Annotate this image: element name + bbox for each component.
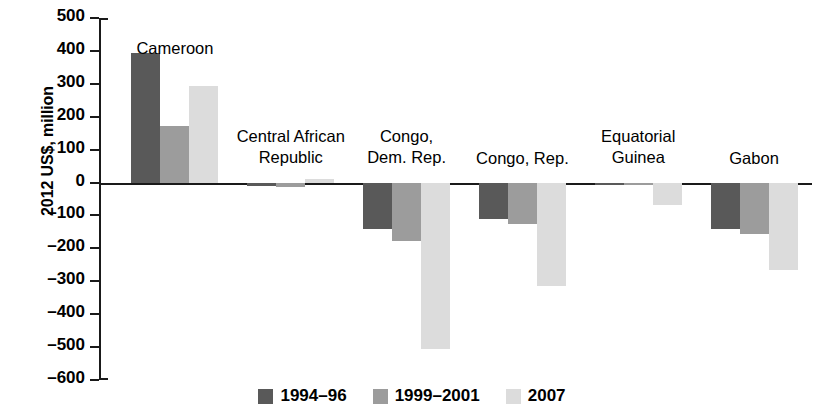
bar [392, 183, 421, 242]
y-tick: –500 [90, 346, 99, 348]
y-axis-bottom-cap [99, 378, 108, 380]
bar [247, 183, 276, 187]
y-tick-label: –200 [47, 236, 85, 256]
bar-group-label-line: Equatorial [601, 126, 675, 147]
y-tick: 300 [90, 83, 99, 85]
y-tick: –100 [90, 214, 99, 216]
bar-group: Central AfricanRepublic [233, 18, 349, 380]
y-tick-label: 0 [76, 171, 85, 191]
bar-group-label-line: Congo, Rep. [476, 148, 569, 169]
y-tick-label: 500 [57, 6, 85, 26]
bar-group-label-line: Cameroon [136, 38, 213, 59]
bar-chart: 2012 US$, million 5004003002001000–100–2… [0, 0, 824, 412]
bar-group-label: Central AfricanRepublic [237, 126, 345, 168]
bar [653, 183, 682, 205]
bar [711, 183, 740, 230]
bar-group-bars [479, 18, 566, 380]
legend-swatch-icon [373, 389, 388, 404]
bar [160, 126, 189, 183]
bar-group-bars [711, 18, 798, 380]
bar-group: Gabon [696, 18, 812, 380]
y-tick: –200 [90, 247, 99, 249]
y-tick: 200 [90, 116, 99, 118]
bar-group-label-line: Central African [237, 126, 345, 147]
bar-group: Congo, Rep. [465, 18, 581, 380]
bar-group-label: Cameroon [136, 38, 213, 59]
y-tick-label: 300 [57, 72, 85, 92]
bar-group-label-line: Guinea [601, 147, 675, 168]
bar-group: Cameroon [117, 18, 233, 380]
y-tick-label: –300 [47, 269, 85, 289]
bar-group-label-line: Congo, [367, 126, 446, 147]
bar-group-label-line: Dem. Rep. [367, 147, 446, 168]
bar [276, 183, 305, 188]
y-tick-label: 400 [57, 39, 85, 59]
y-axis-top-cap [99, 18, 108, 20]
bar-group-label: Gabon [729, 148, 779, 169]
y-tick: –600 [90, 379, 99, 381]
y-tick: 0 [90, 182, 99, 184]
legend-label: 2007 [528, 386, 566, 406]
legend-swatch-icon [506, 389, 521, 404]
bar-group-bars [595, 18, 682, 380]
chart-legend: 1994–961999–20012007 [0, 386, 824, 406]
plot-area: 5004003002001000–100–200–300–400–500–600… [99, 18, 812, 380]
bar [740, 183, 769, 234]
bar [189, 86, 218, 182]
legend-item: 1994–96 [258, 386, 346, 406]
legend-label: 1994–96 [280, 386, 346, 406]
bar [624, 183, 653, 185]
bar-group-label: Congo,Dem. Rep. [367, 126, 446, 168]
bar [537, 183, 566, 287]
y-tick-label: 100 [57, 138, 85, 158]
bar-group-label-line: Republic [237, 147, 345, 168]
y-tick: –400 [90, 313, 99, 315]
y-tick: 500 [90, 17, 99, 19]
bar-group-label: Congo, Rep. [476, 148, 569, 169]
y-tick: –300 [90, 280, 99, 282]
bar-group-bars [363, 18, 450, 380]
y-axis-title: 2012 US$, million [39, 41, 57, 261]
y-tick: 400 [90, 50, 99, 52]
bar-group-bars [247, 18, 334, 380]
y-tick-label: –100 [47, 203, 85, 223]
bar [508, 183, 537, 224]
bar-group-label: EquatorialGuinea [601, 126, 675, 168]
y-tick-label: –500 [47, 335, 85, 355]
bar [363, 183, 392, 229]
legend-item: 1999–2001 [373, 386, 480, 406]
bar [305, 179, 334, 182]
y-tick-label: –600 [47, 368, 85, 388]
bar [769, 183, 798, 270]
y-tick-label: 200 [57, 105, 85, 125]
bar [479, 183, 508, 219]
legend-item: 2007 [506, 386, 566, 406]
y-axis-line [99, 18, 101, 380]
y-tick-label: –400 [47, 302, 85, 322]
bar-group-bars [131, 18, 218, 380]
bar [131, 53, 160, 183]
legend-label: 1999–2001 [395, 386, 480, 406]
bar [421, 183, 450, 349]
bar-group: Congo,Dem. Rep. [349, 18, 465, 380]
legend-swatch-icon [258, 389, 273, 404]
bar [595, 183, 624, 185]
y-tick: 100 [90, 149, 99, 151]
bar-group: EquatorialGuinea [580, 18, 696, 380]
bar-group-label-line: Gabon [729, 148, 779, 169]
